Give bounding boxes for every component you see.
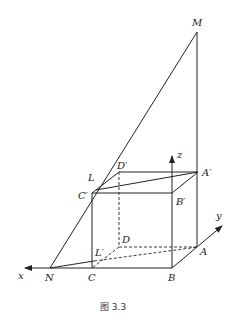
line-LAp [96,172,198,190]
label-A: A [199,246,207,257]
figure-caption: 图 3.3 [100,302,126,312]
cube-edges [92,172,198,268]
label-Bp: B′ [175,196,186,207]
label-Lp: L′ [94,247,105,258]
label-L: L [87,172,95,183]
label-Ap: A′ [201,167,212,178]
label-Dp: D′ [116,160,128,171]
cube-projection-diagram: M N L L′ A B C D A′ B′ C′ D′ x y z 图 3.3 [0,0,236,326]
label-z-axis: z [176,149,183,160]
label-Cp: C′ [78,190,89,201]
hidden-edges [92,172,198,268]
label-x-axis: x [18,270,24,281]
label-B: B [167,272,175,283]
label-M: M [191,17,203,28]
label-C: C [88,272,96,283]
label-N: N [44,272,55,283]
construction-lines [50,32,197,268]
label-D: D [121,234,130,245]
line-MN [50,32,197,268]
line-NLp [50,261,94,268]
label-y-axis: y [215,210,222,221]
edge-BpAp [172,172,198,193]
